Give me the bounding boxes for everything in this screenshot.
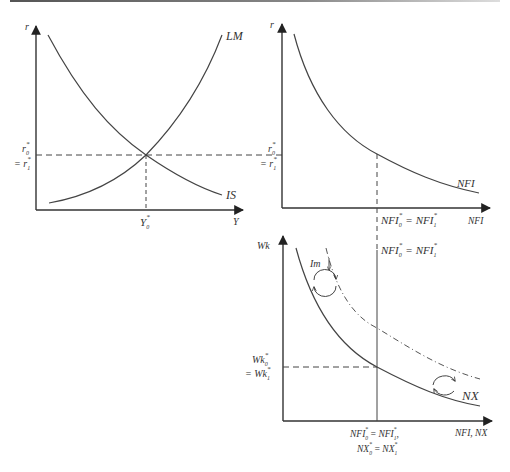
im-label: Im <box>309 258 321 269</box>
nx-label: NX <box>461 388 480 403</box>
wk1-star-label: = Wk1* <box>245 365 271 381</box>
panel-nfi: r NFI NFI r0* = r1* NFI0*=NFI1* <box>260 19 490 250</box>
r0-star-label: r0* <box>268 140 276 156</box>
cycle-arrows-icon-lower <box>433 376 455 395</box>
x-tick-label-line1: NFI0*=NFI1*, <box>349 426 399 441</box>
figure-caption <box>0 462 510 472</box>
panel-is-lm: r Y IS LM r0* = r1* Y0* <box>14 21 282 230</box>
r0-star-label: r0* <box>22 140 30 156</box>
vertical-line-label: NFI0*=NFI1* <box>380 241 437 258</box>
x-tick-label-line2: NX0*=NX1* <box>356 441 397 456</box>
is-curve <box>48 35 222 195</box>
x-axis-label: NFI, NX <box>454 428 488 438</box>
nfi-eq-label: NFI0*=NFI1* <box>380 211 437 228</box>
x-axis-label: Y <box>233 216 240 227</box>
nx-curve <box>296 248 480 406</box>
shifted-nx-curve <box>326 248 480 379</box>
cycle-arrows-icon-upper <box>314 269 336 296</box>
nfi-curve <box>294 34 479 193</box>
r1-star-label: = r1* <box>14 155 31 171</box>
y-axis-label: r <box>270 19 274 30</box>
lm-label: LM <box>225 29 244 43</box>
y-axis-label: Wk <box>257 240 270 251</box>
economic-diagram: r Y IS LM r0* = r1* Y0* r NFI NFI r0* = … <box>0 0 510 472</box>
r1-star-label: = r1* <box>260 155 277 171</box>
y-axis-label: r <box>25 21 29 32</box>
nfi-curve-label: NFI <box>456 177 476 189</box>
lm-curve <box>49 35 222 203</box>
x-axis-label: NFI <box>467 216 484 226</box>
panel-wk-nx: Wk NFI, NX NFI0*=NFI1* NX Wk0* = Wk1* Im… <box>245 236 492 456</box>
y0-star-label: Y0* <box>140 213 150 230</box>
is-label: IS <box>225 188 236 202</box>
